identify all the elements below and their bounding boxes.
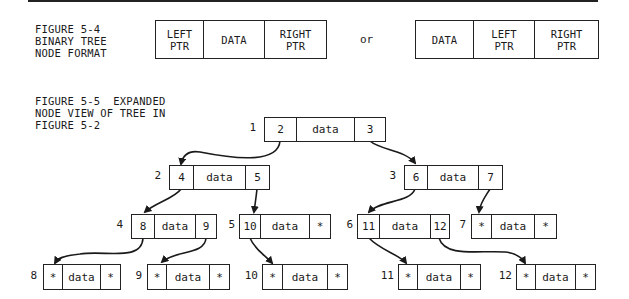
node-3-data: data xyxy=(428,166,479,189)
edge-1-3 xyxy=(370,141,415,163)
node-12-label: 12 xyxy=(492,269,512,282)
node-10-left-ptr: * xyxy=(263,265,283,289)
tree-node-1: 2 data 3 xyxy=(264,117,386,142)
edge-3-6 xyxy=(369,189,415,212)
node-7-data: data xyxy=(492,215,535,238)
node-8-right-ptr: * xyxy=(101,265,120,289)
tree-node-4: 8 data 9 xyxy=(131,214,217,239)
node-2-left-ptr: 4 xyxy=(170,166,194,189)
node-1-label: 1 xyxy=(236,121,256,134)
node-6-label: 6 xyxy=(333,218,353,231)
figure-5-5-caption: FIGURE 5-5 EXPANDED NODE VIEW OF TREE IN… xyxy=(35,95,165,131)
format-b-right-ptr: RIGHT PTR xyxy=(535,21,598,58)
node-12-right-ptr: * xyxy=(576,265,595,289)
node-9-left-ptr: * xyxy=(148,265,167,289)
node-1-data: data xyxy=(297,118,355,141)
tree-node-3: 6 data 7 xyxy=(404,165,503,190)
node-12-left-ptr: * xyxy=(517,265,536,289)
edge-6-12 xyxy=(439,238,525,263)
tree-node-5: 10 data * xyxy=(239,214,331,239)
node-2-data: data xyxy=(194,166,246,189)
edge-4-9 xyxy=(162,238,206,262)
format-a-left-ptr: LEFT PTR xyxy=(156,21,204,58)
node-5-label: 5 xyxy=(215,218,235,231)
node-10-label: 10 xyxy=(238,269,258,282)
edge-1-2 xyxy=(181,141,280,164)
tree-node-7: * data * xyxy=(471,214,557,239)
node-1-right-ptr: 3 xyxy=(355,118,385,141)
tree-node-8: * data * xyxy=(43,264,121,290)
node-8-label: 8 xyxy=(17,269,37,282)
tree-node-9: * data * xyxy=(147,264,230,290)
node-format-a: LEFT PTR DATA RIGHT PTR xyxy=(155,20,327,59)
figure-5-4-caption: FIGURE 5-4 BINARY TREE NODE FORMAT xyxy=(35,23,107,59)
node-5-left-ptr: 10 xyxy=(240,215,261,238)
node-7-left-ptr: * xyxy=(472,215,492,238)
node-6-data: data xyxy=(380,215,431,238)
tree-node-6: 11 data 12 xyxy=(357,214,450,239)
node-3-left-ptr: 6 xyxy=(405,166,428,189)
tree-node-2: 4 data 5 xyxy=(169,165,270,190)
tree-node-11: * data * xyxy=(398,264,481,290)
node-11-right-ptr: * xyxy=(461,265,480,289)
node-9-right-ptr: * xyxy=(210,265,229,289)
edge-2-4 xyxy=(145,189,181,212)
node-12-data: data xyxy=(536,265,576,289)
node-4-data: data xyxy=(155,215,196,238)
node-2-label: 2 xyxy=(141,169,161,182)
edge-2-5 xyxy=(254,189,257,212)
node-1-left-ptr: 2 xyxy=(265,118,297,141)
node-5-right-ptr: * xyxy=(310,215,330,238)
format-b-left-ptr: LEFT PTR xyxy=(474,21,535,58)
node-format-b: DATA LEFT PTR RIGHT PTR xyxy=(415,20,599,59)
node-10-data: data xyxy=(283,265,328,289)
node-11-left-ptr: * xyxy=(399,265,418,289)
node-6-left-ptr: 11 xyxy=(358,215,380,238)
node-3-label: 3 xyxy=(376,169,396,182)
tree-node-10: * data * xyxy=(262,264,348,290)
node-9-data: data xyxy=(167,265,210,289)
node-10-right-ptr: * xyxy=(328,265,347,289)
node-3-right-ptr: 7 xyxy=(479,166,502,189)
node-11-label: 11 xyxy=(374,269,394,282)
node-4-label: 4 xyxy=(103,218,123,231)
node-5-data: data xyxy=(261,215,310,238)
edge-6-11 xyxy=(369,238,406,263)
node-7-label: 7 xyxy=(446,218,466,231)
node-9-label: 9 xyxy=(122,269,142,282)
format-a-data: DATA xyxy=(204,21,265,58)
edge-3-7 xyxy=(479,189,490,212)
node-11-data: data xyxy=(418,265,461,289)
or-label: or xyxy=(360,33,373,46)
format-a-right-ptr: RIGHT PTR xyxy=(265,21,326,58)
node-8-data: data xyxy=(63,265,101,289)
format-b-data: DATA xyxy=(416,21,474,58)
top-rule xyxy=(28,0,598,2)
node-7-right-ptr: * xyxy=(535,215,556,238)
tree-node-12: * data * xyxy=(516,264,596,290)
edge-5-10 xyxy=(250,238,272,263)
node-4-right-ptr: 9 xyxy=(196,215,216,238)
edge-4-8 xyxy=(55,238,143,263)
node-8-left-ptr: * xyxy=(44,265,63,289)
node-4-left-ptr: 8 xyxy=(132,215,155,238)
node-2-right-ptr: 5 xyxy=(246,166,269,189)
